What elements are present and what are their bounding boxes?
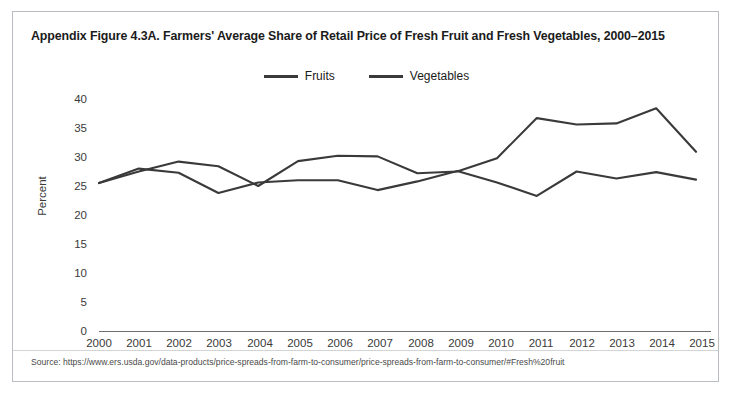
- x-tick-label: 2007: [358, 337, 402, 349]
- x-tick-label: 2008: [399, 337, 443, 349]
- x-tick-label: 2010: [479, 337, 523, 349]
- x-tick-label: 2003: [197, 337, 241, 349]
- x-tick-label: 2015: [680, 337, 724, 349]
- x-tick-label: 2006: [318, 337, 362, 349]
- x-tick-label: 2013: [600, 337, 644, 349]
- x-tick-label: 2005: [278, 337, 322, 349]
- figure-card: Appendix Figure 4.3A. Farmers' Average S…: [12, 11, 719, 382]
- x-tick-label: 2014: [640, 337, 684, 349]
- line-chart-svg: [13, 12, 720, 383]
- source-note: Source: https://www.ers.usda.gov/data-pr…: [31, 357, 701, 367]
- source-divider: [13, 350, 718, 351]
- x-tick-label: 2009: [439, 337, 483, 349]
- series-line-vegetables: [99, 108, 696, 186]
- x-tick-label: 2011: [519, 337, 563, 349]
- x-tick-label: 2004: [238, 337, 282, 349]
- x-tick-label: 2002: [157, 337, 201, 349]
- x-tick-label: 2001: [117, 337, 161, 349]
- x-tick-label: 2012: [560, 337, 604, 349]
- plot-area: Percent 40 35 30 25 20 15 10 5 0 2000 20…: [13, 12, 720, 383]
- series-line-fruits: [99, 169, 696, 196]
- x-tick-label: 2000: [77, 337, 121, 349]
